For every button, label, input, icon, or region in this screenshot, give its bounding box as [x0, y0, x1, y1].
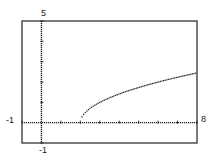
ymax-label: 5: [41, 9, 46, 18]
ymin-label: -1: [39, 146, 47, 155]
plot-area: [0, 0, 218, 162]
xmax-label: 8: [201, 115, 206, 124]
axes: [22, 21, 197, 143]
function-curve: [80, 73, 197, 124]
window-frame: [22, 21, 197, 143]
xmin-label: -1: [6, 116, 14, 125]
